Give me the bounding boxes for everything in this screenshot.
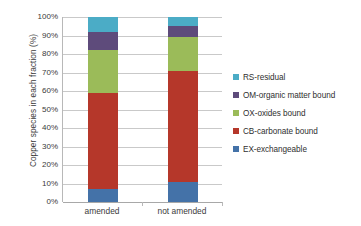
x-axis-tick-label: not amended [142, 206, 222, 216]
bar-segment-EX[interactable] [168, 182, 198, 202]
y-axis-tick-labels: 0%10%20%30%40%50%60%70%80%90%100% [28, 17, 60, 202]
y-axis-tick-label: 0% [46, 198, 58, 206]
bar-segment-RS[interactable] [88, 17, 118, 32]
legend-label: RS-residual [243, 73, 285, 82]
y-axis-tick-label: 30% [42, 143, 58, 151]
bar-segment-CB[interactable] [168, 71, 198, 182]
stacked-bar-chart: Copper species in each fraction (%) 0%10… [0, 0, 361, 226]
legend-label: OM-organic matter bound [243, 91, 335, 100]
x-axis-tick-labels: amendednot amended [62, 206, 222, 222]
legend-swatch-icon [233, 146, 239, 152]
y-axis-tick-label: 60% [42, 87, 58, 95]
bar-segment-OM[interactable] [168, 26, 198, 37]
x-axis-tick-mark [222, 202, 223, 206]
bar-group [143, 17, 223, 202]
y-axis-tick-label: 10% [42, 180, 58, 188]
stacked-bar-amended[interactable] [88, 17, 118, 202]
legend-item[interactable]: OM-organic matter bound [233, 86, 359, 104]
legend-swatch-icon [233, 92, 239, 98]
bar-segment-OM[interactable] [88, 32, 118, 51]
x-axis-tick-label: amended [62, 206, 142, 216]
legend-item[interactable]: OX-oxides bound [233, 104, 359, 122]
legend-label: CB-carbonate bound [243, 127, 318, 136]
y-axis-tick-label: 80% [42, 50, 58, 58]
bar-segment-CB[interactable] [88, 93, 118, 189]
legend-label: OX-oxides bound [243, 109, 306, 118]
stacked-bar-not-amended[interactable] [168, 17, 198, 202]
y-axis-tick-label: 40% [42, 124, 58, 132]
chart-legend: RS-residualOM-organic matter boundOX-oxi… [233, 68, 359, 158]
y-axis-tick-label: 90% [42, 32, 58, 40]
bar-segment-EX[interactable] [88, 189, 118, 202]
legend-item[interactable]: RS-residual [233, 68, 359, 86]
bar-segment-OX[interactable] [88, 50, 118, 93]
y-axis-tick-label: 100% [38, 13, 58, 21]
legend-label: EX-exchangeable [243, 145, 307, 154]
bar-segment-RS[interactable] [168, 17, 198, 26]
legend-swatch-icon [233, 110, 239, 116]
legend-item[interactable]: CB-carbonate bound [233, 122, 359, 140]
plot-area [62, 17, 222, 202]
y-axis-tick-label: 50% [42, 106, 58, 114]
bar-segment-OX[interactable] [168, 37, 198, 70]
legend-swatch-icon [233, 128, 239, 134]
legend-swatch-icon [233, 74, 239, 80]
y-axis-tick-label: 70% [42, 69, 58, 77]
y-axis-tick-label: 20% [42, 161, 58, 169]
bar-group [63, 17, 143, 202]
legend-item[interactable]: EX-exchangeable [233, 140, 359, 158]
